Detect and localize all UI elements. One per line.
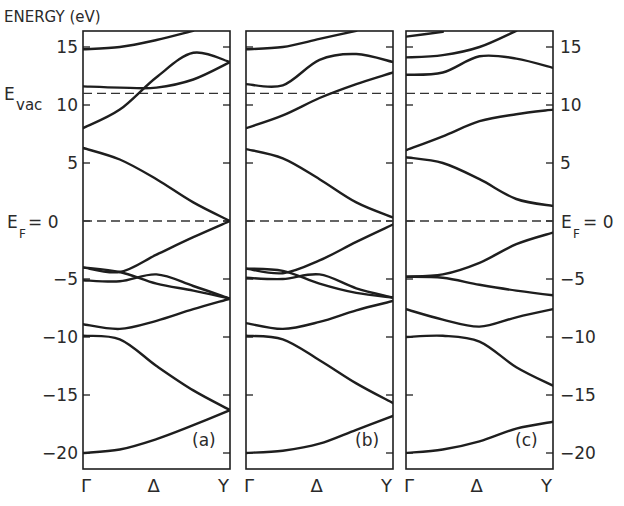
- panel-label: (c): [515, 430, 538, 450]
- panels: (a)(b)(c): [83, 31, 553, 469]
- y-tick-label: −10: [560, 327, 596, 347]
- ef-label-right: E F = 0: [561, 212, 613, 241]
- band-curve-c2a: [83, 62, 230, 88]
- band-curve-v1: [246, 149, 393, 217]
- band-curve-v2a: [246, 225, 393, 274]
- panel-frame: [406, 31, 553, 469]
- x-axis-labels: ΓΔYΓΔYΓΔY: [81, 475, 553, 496]
- band-curve-v4: [406, 336, 553, 386]
- panel-a: (a): [83, 31, 230, 469]
- band-curve-v1: [406, 157, 553, 206]
- band-curve-c4: [406, 32, 443, 37]
- x-label-y: Y: [540, 475, 553, 496]
- panel-label: (a): [192, 430, 216, 450]
- y-tick-label: −15: [560, 385, 596, 405]
- x-label-gamma: Γ: [404, 475, 414, 496]
- svg-text:= 0: = 0: [28, 212, 58, 232]
- panel-c: (c): [406, 31, 553, 469]
- y-tick-label: −10: [42, 327, 78, 347]
- y-tick-label: 15: [560, 37, 582, 57]
- band-curve-v4: [246, 336, 393, 403]
- chart-canvas: ENERGY (eV) 15105−5−10−15−20 15105−5−10−…: [0, 0, 624, 506]
- y-tick-label: −20: [42, 443, 78, 463]
- ef-label-left: E F = 0: [7, 212, 58, 241]
- y-tick-label: −20: [560, 443, 596, 463]
- band-curve-v2a: [406, 233, 553, 277]
- right-y-axis-labels: 15105−5−10−15−20: [560, 37, 596, 463]
- svg-text:E: E: [561, 212, 572, 232]
- y-tick-label: 5: [560, 153, 571, 173]
- bands: [83, 31, 230, 453]
- svg-text:E: E: [7, 212, 18, 232]
- svg-text:F: F: [573, 227, 580, 241]
- y-tick-label: −5: [560, 269, 585, 289]
- x-label-y: Y: [217, 475, 230, 496]
- band-curve-v2b: [83, 274, 230, 298]
- svg-text:F: F: [19, 227, 26, 241]
- x-label-delta: Δ: [148, 475, 161, 496]
- x-label-delta: Δ: [471, 475, 484, 496]
- bands: [406, 31, 553, 453]
- panel-label: (b): [355, 430, 379, 450]
- band-curve-v4: [83, 336, 230, 410]
- band-curve-c2: [406, 55, 553, 74]
- band-curve-v3b: [246, 301, 393, 329]
- x-label-y: Y: [380, 475, 393, 496]
- bands: [246, 31, 393, 453]
- panel-frame: [83, 31, 230, 469]
- band-curve-c2b: [83, 52, 230, 128]
- evac-label: E vac: [4, 84, 42, 114]
- y-tick-label: 5: [67, 153, 78, 173]
- band-curve-v2b: [406, 277, 553, 296]
- band-curve-v2a: [83, 221, 230, 272]
- band-curve-v3b: [83, 299, 230, 329]
- x-label-gamma: Γ: [244, 475, 254, 496]
- left-y-axis-labels: 15105−5−10−15−20: [42, 37, 78, 463]
- x-label-delta: Δ: [311, 475, 324, 496]
- band-curve-c2a: [246, 54, 393, 87]
- band-curve-c1: [406, 110, 553, 151]
- svg-text:E: E: [4, 84, 15, 104]
- y-tick-label: 15: [56, 37, 78, 57]
- svg-text:= 0: = 0: [583, 212, 613, 232]
- y-tick-label: 10: [56, 95, 78, 115]
- panel-b: (b): [246, 31, 393, 469]
- y-axis-title: ENERGY (eV): [4, 8, 101, 26]
- band-curve-c3: [246, 31, 356, 50]
- band-curve-c2b: [246, 73, 393, 129]
- y-tick-label: −5: [53, 269, 78, 289]
- band-curve-v1: [83, 148, 230, 221]
- svg-text:vac: vac: [16, 96, 42, 114]
- y-tick-label: 10: [560, 95, 582, 115]
- y-tick-label: −15: [42, 385, 78, 405]
- x-label-gamma: Γ: [81, 475, 91, 496]
- band-curve-c3: [83, 31, 193, 50]
- band-curve-v3: [406, 309, 553, 326]
